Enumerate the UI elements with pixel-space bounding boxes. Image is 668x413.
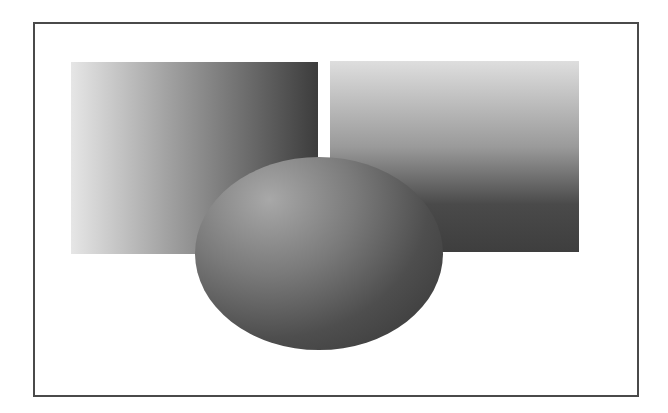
gradient-ellipse — [195, 157, 443, 350]
